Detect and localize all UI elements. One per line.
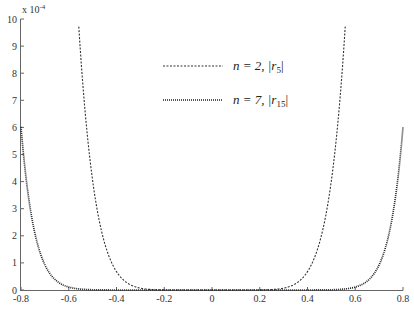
series-line-n7 (21, 127, 403, 290)
y-tick-label: 1 (12, 257, 17, 268)
y-multiplier-label: x 10-4 (22, 3, 46, 15)
y-tick-label: 7 (12, 95, 17, 106)
line-chart: 012345678910 -0.8-0.6-0.4-0.200.20.40.60… (0, 0, 414, 312)
y-tick-label: 5 (12, 149, 17, 160)
y-tick-label: 6 (12, 122, 17, 133)
x-tick-label: -0.2 (156, 293, 172, 304)
y-tick-label: 8 (12, 68, 17, 79)
axes: 012345678910 -0.8-0.6-0.4-0.200.20.40.60… (7, 3, 409, 304)
legend: n = 2, |r5| n = 7, |r15| (163, 58, 288, 109)
y-tick-label: 3 (12, 203, 17, 214)
y-tick-label: 2 (12, 230, 17, 241)
x-tick-label: 0.8 (397, 293, 410, 304)
y-tick-label: 9 (12, 41, 17, 52)
x-tick-label: 0.6 (349, 293, 362, 304)
figure-caption-cut-off (0, 305, 300, 312)
y-ticks: 012345678910 (7, 14, 24, 296)
y-tick-label: 4 (12, 176, 17, 187)
legend-label-n2: n = 2, |r5| (233, 58, 284, 75)
x-tick-label: 0.2 (254, 293, 267, 304)
x-tick-label: 0 (210, 293, 215, 304)
x-tick-label: -0.6 (61, 293, 77, 304)
x-tick-label: -0.8 (13, 293, 29, 304)
x-tick-label: 0.4 (301, 293, 314, 304)
legend-label-n7: n = 7, |r15| (233, 92, 288, 109)
y-tick-label: 10 (7, 14, 17, 25)
x-tick-label: -0.4 (109, 293, 125, 304)
